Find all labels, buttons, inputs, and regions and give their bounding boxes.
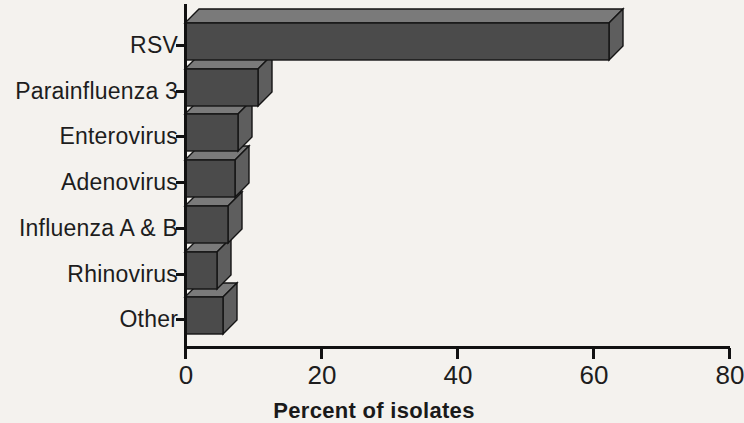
bar-rsv	[185, 9, 623, 60]
x-axis-tick-40: 40	[444, 362, 473, 388]
x-axis-tick-80: 80	[716, 362, 744, 388]
x-axis-tick-20: 20	[308, 362, 337, 388]
x-axis-ticks	[186, 348, 730, 359]
x-axis-tick-0: 0	[179, 362, 193, 388]
x-axis-title: Percent of isolates	[273, 398, 474, 423]
bar-adenovirus	[185, 146, 249, 197]
bar-enterovirus	[185, 100, 252, 151]
bar-parainfluenza-3	[185, 55, 272, 106]
bar-rhinovirus	[185, 238, 231, 289]
bar-other	[185, 283, 237, 334]
bar-influenza-a-b	[185, 192, 242, 243]
x-axis-tick-60: 60	[580, 362, 609, 388]
